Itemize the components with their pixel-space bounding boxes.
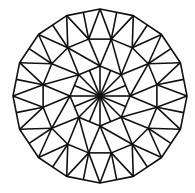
mid-outer-edge (157, 96, 187, 107)
triangulated-mesh-diagram (0, 0, 195, 193)
middle-ring-edge (43, 107, 52, 128)
mid-outer-edge (89, 153, 100, 183)
mid-outer-edge (148, 128, 180, 129)
mid-outer-edge (100, 9, 111, 39)
mid-outer-edge (67, 16, 68, 48)
inner-mid-edge (52, 96, 70, 128)
inner-mid-edge (100, 39, 111, 66)
middle-ring-edge (68, 144, 89, 153)
inner-mid-edge (130, 96, 157, 107)
middle-ring-edge (111, 144, 132, 153)
middle-ring-edge (68, 39, 89, 48)
middle-ring-edge (148, 64, 157, 85)
inner-mid-edge (43, 75, 79, 85)
inner-mid-edge (100, 126, 132, 144)
mid-outer-edge (157, 85, 187, 96)
mid-outer-edge (132, 144, 133, 176)
center-spoke (79, 96, 100, 117)
middle-ring-edge (148, 107, 157, 128)
middle-ring-edge (132, 48, 148, 64)
inner-mid-edge (130, 64, 148, 96)
mid-outer-edge (100, 153, 111, 183)
center-spoke (100, 96, 121, 117)
middle-ring-edge (132, 128, 148, 144)
inner-mid-edge (121, 107, 157, 117)
center-spoke (79, 75, 100, 96)
mid-outer-edge (89, 9, 100, 39)
inner-mid-edge (79, 117, 89, 153)
middle-ring-edge (52, 48, 68, 64)
middle-ring-edge (111, 39, 132, 48)
mid-outer-edge (20, 63, 52, 64)
inner-mid-edge (111, 39, 121, 75)
mid-outer-edge (13, 85, 43, 96)
inner-mid-edge (89, 126, 100, 153)
mid-outer-edge (20, 128, 52, 129)
mid-outer-edge (13, 96, 43, 107)
middle-ring-edge (52, 128, 68, 144)
center-spoke (100, 75, 121, 96)
mid-outer-edge (132, 16, 133, 48)
center-node (98, 94, 103, 99)
mid-outer-edge (67, 144, 68, 176)
middle-ring-edge (43, 64, 52, 85)
mid-outer-edge (148, 63, 180, 64)
inner-mid-edge (43, 85, 70, 96)
inner-mid-edge (68, 48, 100, 66)
